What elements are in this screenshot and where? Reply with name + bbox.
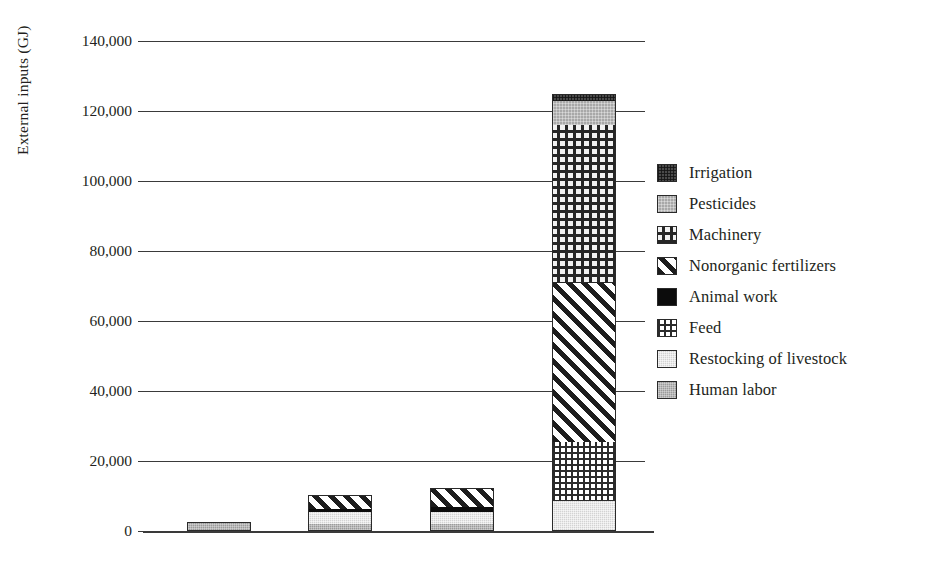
bar-segment-human-labor	[187, 522, 251, 531]
bar-1752	[187, 522, 251, 531]
bar-1997	[552, 94, 616, 532]
y-axis-tick-label: 40,000	[89, 382, 132, 400]
bar-segment-pesticides	[552, 101, 616, 126]
y-axis-tick	[138, 181, 152, 182]
bar-segment-animal-work	[430, 507, 494, 512]
legend-label: Animal work	[689, 287, 778, 307]
legend-item-feed[interactable]: Feed	[657, 312, 847, 343]
bar-segment-nonorganic-fertilizers	[430, 488, 494, 507]
bar-segment-restocking-of-livestock	[552, 501, 616, 531]
y-axis-tick	[138, 111, 152, 112]
nonorganic-fertilizers-swatch	[657, 257, 677, 275]
legend-label: Pesticides	[689, 194, 756, 214]
bar-segment-human-labor	[308, 524, 372, 531]
irrigation-swatch	[657, 164, 677, 182]
y-axis-tick	[138, 41, 152, 42]
legend-item-restocking-of-livestock[interactable]: Restocking of livestock	[657, 343, 847, 374]
legend-label: Nonorganic fertilizers	[689, 256, 836, 276]
bar-segment-feed	[552, 442, 616, 502]
y-axis-tick-label: 60,000	[89, 312, 132, 330]
bar-segment-machinery	[552, 125, 616, 283]
y-axis-tick-label: 100,000	[82, 172, 132, 190]
legend-item-pesticides[interactable]: Pesticides	[657, 188, 847, 219]
legend-item-nonorganic-fertilizers[interactable]: Nonorganic fertilizers	[657, 250, 847, 281]
legend-label: Feed	[689, 318, 721, 338]
pesticides-swatch	[657, 195, 677, 213]
machinery-swatch	[657, 226, 677, 244]
y-axis-title: External inputs (GJ)	[14, 0, 32, 155]
bar-1904	[308, 495, 372, 531]
plot-area: 020,00040,00060,00080,000100,000120,0001…	[152, 41, 645, 531]
legend-label: Machinery	[689, 225, 761, 245]
y-axis-tick-label: 0	[124, 522, 132, 540]
gridline	[152, 41, 645, 42]
y-axis-tick-label: 80,000	[89, 242, 132, 260]
bar-segment-nonorganic-fertilizers	[308, 495, 372, 509]
y-axis-tick-label: 20,000	[89, 452, 132, 470]
feed-swatch	[657, 319, 677, 337]
y-axis-tick	[138, 461, 152, 462]
legend-item-human-labor[interactable]: Human labor	[657, 374, 847, 405]
restocking-of-livestock-swatch	[657, 350, 677, 368]
legend-label: Human labor	[689, 380, 777, 400]
legend-item-animal-work[interactable]: Animal work	[657, 281, 847, 312]
y-axis-tick	[138, 321, 152, 322]
y-axis-tick	[138, 391, 152, 392]
bar-1934	[430, 488, 494, 531]
animal-work-swatch	[657, 288, 677, 306]
legend-item-irrigation[interactable]: Irrigation	[657, 157, 847, 188]
bar-segment-restocking-of-livestock	[308, 512, 372, 524]
y-axis-tick-label: 140,000	[82, 32, 132, 50]
bar-segment-animal-work	[308, 509, 372, 511]
bar-segment-nonorganic-fertilizers	[552, 283, 616, 442]
legend-item-machinery[interactable]: Machinery	[657, 219, 847, 250]
legend: IrrigationPesticidesMachineryNonorganic …	[657, 157, 847, 405]
y-axis-tick	[138, 251, 152, 252]
legend-label: Irrigation	[689, 163, 752, 183]
bar-segment-irrigation	[552, 94, 616, 101]
x-axis-line	[143, 531, 654, 533]
legend-label: Restocking of livestock	[689, 349, 847, 369]
bar-segment-human-labor	[430, 524, 494, 531]
human-labor-swatch	[657, 381, 677, 399]
chart-figure: External inputs (GJ) 020,00040,00060,000…	[0, 0, 934, 587]
y-axis-tick-label: 120,000	[82, 102, 132, 120]
bar-segment-restocking-of-livestock	[430, 512, 494, 524]
